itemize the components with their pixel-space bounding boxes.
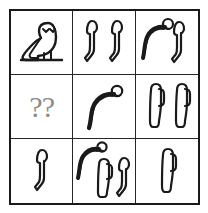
matrix-cell-3[interactable]: snake and leg [136,11,198,75]
glyph-stack [136,139,198,203]
leg-glyph [106,18,126,66]
glyph-stack [73,75,134,138]
vessel-glyph [143,82,167,132]
vessel-glyph [92,157,114,201]
matrix-cell-7[interactable]: leg [11,139,73,203]
matrix-cell-2[interactable]: two legs [73,11,135,75]
glyph-stack [73,11,134,74]
matrix-cell-9[interactable]: vessel [136,139,198,203]
glyph-stack [73,139,134,203]
matrix-cell-1[interactable]: owl [11,11,73,75]
matrix-grid: owl [9,9,200,205]
glyph-stack [136,75,198,138]
matrix-cell-5[interactable]: snake [73,75,135,139]
matrix-cell-4-unknown[interactable]: unknown ?? [11,75,73,139]
matrix-cell-6[interactable]: two vessels [136,75,198,139]
vessel-glyph [169,82,193,132]
leg-glyph [113,155,133,201]
leg-glyph [81,18,101,66]
owl-glyph [18,17,66,67]
hieroglyph-matrix-puzzle: Hieroglyph Matrix Puzzle owl [0,0,208,213]
leg-glyph [31,147,53,197]
snake-glyph [82,83,126,131]
matrix-cell-8[interactable]: snake, vessel and leg [73,139,135,203]
unknown-question-marks: ?? [11,75,72,138]
glyph-stack [136,11,198,74]
glyph-stack [11,139,72,203]
leg-glyph [168,19,188,67]
glyph-stack [11,11,72,74]
vessel-glyph [155,147,181,197]
